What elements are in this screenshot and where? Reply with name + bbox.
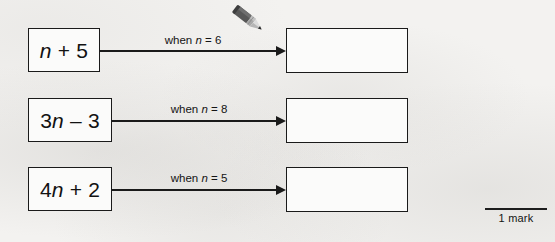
pencil-icon — [228, 4, 272, 36]
arrow-connector: when n = 5 — [112, 189, 286, 191]
mark-rule — [485, 208, 547, 210]
answer-box[interactable] — [286, 98, 408, 143]
worksheet-page: n + 5 when n = 6 3n – 3 when n = 8 4n + … — [0, 0, 555, 242]
expression-box: 4n + 2 — [28, 167, 112, 211]
arrow-head-icon — [276, 185, 286, 195]
condition-label: when n = 5 — [112, 173, 286, 185]
arrow-connector: when n = 6 — [100, 50, 286, 52]
arrow-shaft — [112, 120, 277, 122]
variable-n: n — [52, 178, 64, 201]
expression-text: 4n + 2 — [40, 179, 100, 200]
arrow-head-icon — [276, 46, 286, 56]
expression-text: 3n – 3 — [40, 110, 100, 131]
variable-n: n — [40, 39, 52, 62]
arrow-shaft — [100, 50, 277, 52]
mark-annotation: 1 mark — [484, 208, 548, 224]
arrow-shaft — [112, 189, 277, 191]
variable-n: n — [52, 109, 64, 132]
mark-label: 1 mark — [484, 213, 548, 224]
expression-row: 3n – 3 when n = 8 — [0, 98, 555, 144]
expression-row: n + 5 when n = 6 — [0, 28, 555, 74]
answer-box[interactable] — [286, 167, 408, 212]
expression-text: n + 5 — [40, 40, 88, 61]
arrow-connector: when n = 8 — [112, 120, 286, 122]
condition-label: when n = 8 — [112, 104, 286, 116]
condition-label: when n = 6 — [100, 35, 286, 47]
expression-box: n + 5 — [28, 28, 100, 72]
answer-box[interactable] — [286, 28, 408, 73]
expression-row: 4n + 2 when n = 5 — [0, 167, 555, 213]
expression-box: 3n – 3 — [28, 98, 112, 142]
arrow-head-icon — [276, 116, 286, 126]
